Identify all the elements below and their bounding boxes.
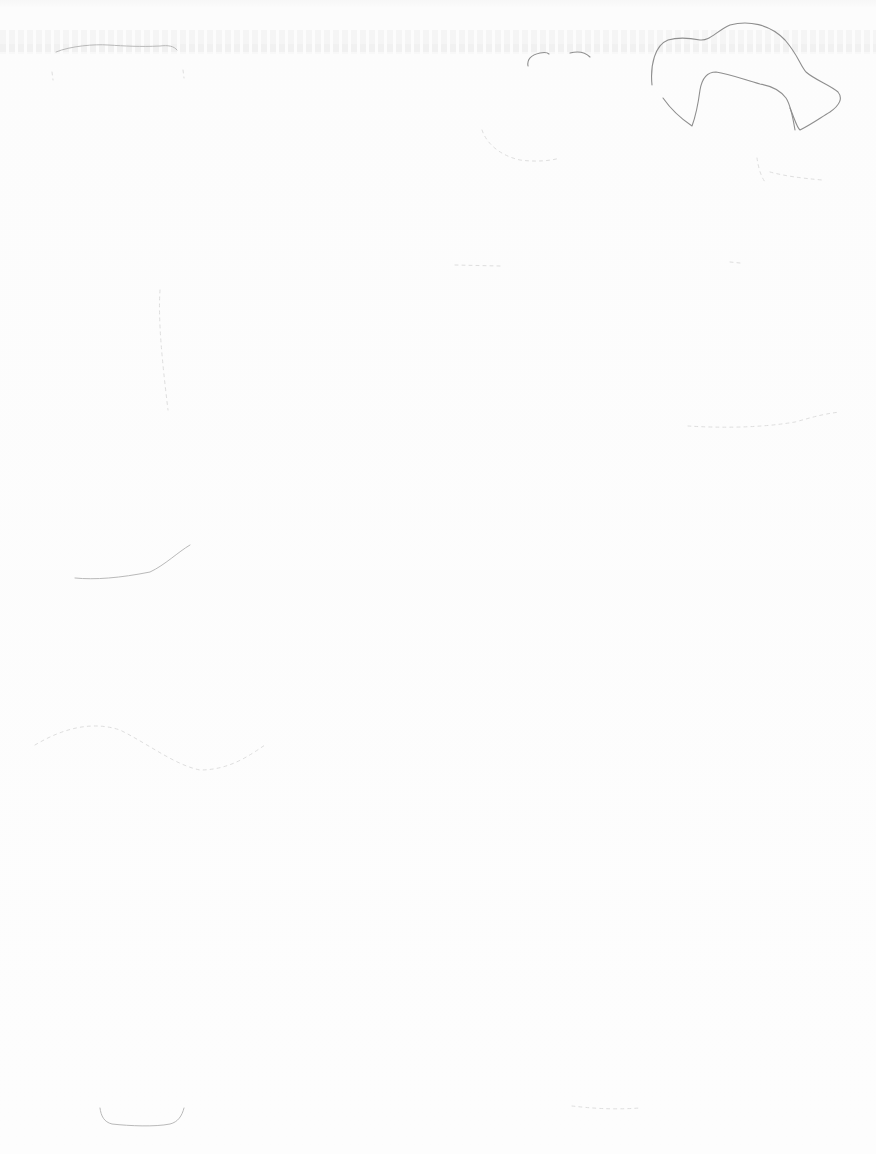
- center-faint-line: [455, 262, 740, 266]
- bottom-right-faint-stroke: [572, 1106, 640, 1109]
- right-brow-arc: [570, 52, 590, 57]
- pencil-sketch-layer: [0, 0, 876, 1154]
- blank-scanned-page: [0, 0, 876, 1154]
- right-faint-stroke: [688, 412, 840, 427]
- bottom-left-curve: [100, 1108, 184, 1126]
- top-left-ticks: [52, 70, 184, 80]
- top-left-wavy-line: [56, 45, 177, 52]
- hat-outer-outline: [652, 23, 841, 130]
- hat-inner-brim: [663, 72, 795, 130]
- hat-lower-stroke: [757, 158, 822, 182]
- left-brow-arc: [528, 53, 549, 66]
- lower-left-arc: [35, 726, 265, 770]
- lower-face-curve: [482, 130, 560, 161]
- left-vertical-faint: [159, 290, 168, 410]
- left-curve: [75, 545, 190, 579]
